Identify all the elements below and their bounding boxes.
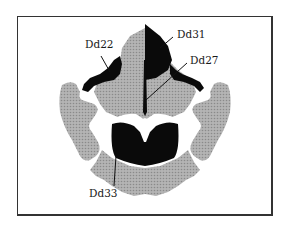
gray-region-right-wing xyxy=(190,82,230,160)
inkblot-diagram: Dd22 Dd31 Dd27 Dd33 xyxy=(0,0,290,229)
gray-region-left-wing xyxy=(59,82,99,160)
label-dd22: Dd22 xyxy=(85,38,114,50)
label-dd31: Dd31 xyxy=(177,28,206,40)
label-dd33: Dd33 xyxy=(89,187,118,199)
label-dd27: Dd27 xyxy=(190,54,219,66)
leader-dd22 xyxy=(101,56,110,72)
